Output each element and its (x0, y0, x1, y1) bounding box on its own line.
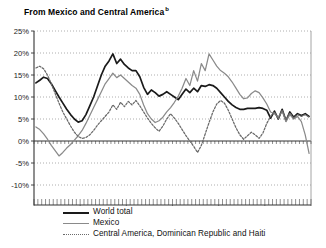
legend-line-icon-world-total (63, 207, 89, 216)
line-chart-plot: 25%20%15%10%5%0%-5%-10%20032004200520062… (0, 22, 326, 206)
legend-line-icon-central-america (63, 229, 89, 238)
data-series-line (36, 66, 309, 152)
y-axis-tick-label: 25% (14, 27, 29, 36)
legend-label-world-total: World total (89, 207, 133, 216)
page-title: From Mexico and Central Americab (24, 6, 169, 17)
legend-label-mexico: Mexico (89, 218, 119, 227)
y-axis-tick-label: 20% (14, 49, 29, 58)
legend-item-world-total: World total (63, 206, 323, 217)
y-axis-tick-label: 10% (14, 93, 29, 102)
legend-line-icon-mexico (63, 218, 89, 227)
legend-item-central-america: Central America, Dominican Republic and … (63, 228, 323, 239)
y-axis-tick-label: 5% (18, 115, 29, 124)
chart-title-text: From Mexico and Central America (24, 7, 164, 17)
title-footnote-marker: b (165, 6, 169, 12)
y-axis-tick-label: 0% (18, 137, 29, 146)
legend-label-central-america: Central America, Dominican Republic and … (89, 229, 265, 238)
y-axis-tick-label: 15% (14, 71, 29, 80)
chart-legend: World total Mexico Central America, Domi… (63, 206, 323, 239)
legend-item-mexico: Mexico (63, 217, 323, 228)
chart-figure: From Mexico and Central Americab 25%20%1… (0, 0, 326, 248)
data-series-line (36, 54, 309, 122)
y-axis-tick-label: -10% (11, 181, 29, 190)
y-axis-tick-label: -5% (15, 159, 29, 168)
